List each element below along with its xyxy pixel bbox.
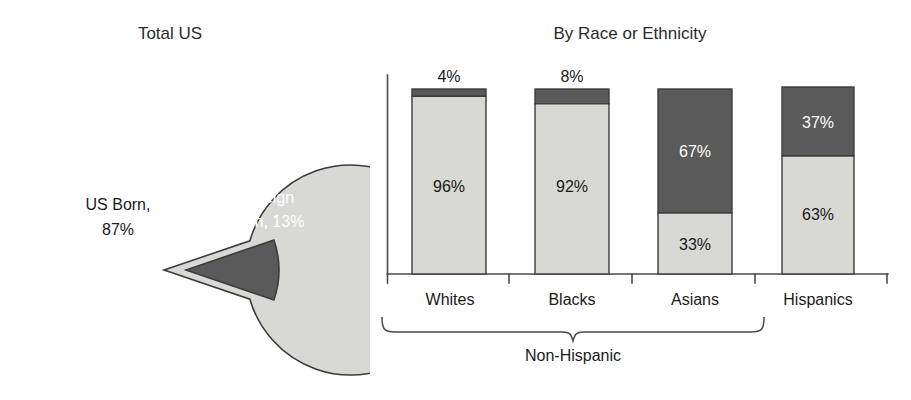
pie-chart-title: Total US: [0, 24, 340, 44]
category-label-asians: Asians: [671, 291, 719, 308]
bar-group-asians: 67% 33%: [658, 89, 732, 274]
bar-blacks-foreign-segment: [535, 89, 609, 104]
pie-label-us-born-line1: US Born,: [86, 196, 151, 213]
non-hispanic-brace: [382, 317, 764, 341]
bar-chart-title: By Race or Ethnicity: [400, 24, 860, 44]
bar-group-hispanics: 37% 63%: [782, 87, 854, 274]
bar-whites-usborn-value: 96%: [433, 178, 465, 195]
bar-asians-usborn-value: 33%: [679, 236, 711, 253]
bar-whites-foreign-value: 4%: [437, 68, 460, 85]
pie-label-foreign-born-line2: Born, 13%: [230, 213, 305, 230]
category-label-hispanics: Hispanics: [783, 291, 852, 308]
bar-group-blacks: 8% 92%: [535, 68, 609, 274]
bar-group-whites: 4% 96%: [412, 68, 486, 274]
non-hispanic-label: Non-Hispanic: [525, 347, 621, 364]
bar-hispanics-foreign-value: 37%: [802, 114, 834, 131]
bar-chart: 4% 96% 8% 92% 67% 33% 37% 63% Whites Bla…: [371, 55, 911, 400]
figure-root: Total US By Race or Ethnicity US Born, 8…: [0, 0, 911, 400]
category-label-whites: Whites: [426, 291, 475, 308]
bar-asians-foreign-value: 67%: [679, 143, 711, 160]
pie-chart: US Born, 87% Foreign Born, 13%: [0, 55, 370, 395]
category-label-blacks: Blacks: [548, 291, 595, 308]
pie-label-foreign-born-line1: Foreign: [240, 189, 294, 206]
pie-label-us-born-line2: 87%: [102, 221, 134, 238]
bar-hispanics-usborn-value: 63%: [802, 206, 834, 223]
bar-blacks-foreign-value: 8%: [560, 68, 583, 85]
bar-blacks-usborn-value: 92%: [556, 178, 588, 195]
bar-whites-foreign-segment: [412, 89, 486, 96]
